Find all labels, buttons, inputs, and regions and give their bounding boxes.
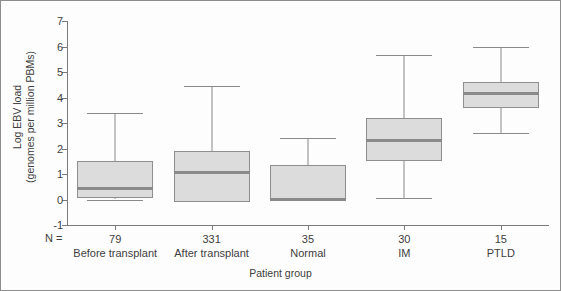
- group-count: 79: [67, 232, 163, 246]
- group-count: 331: [163, 232, 259, 246]
- n-equals-label: N =: [45, 232, 62, 244]
- box-plot-im[interactable]: [356, 21, 452, 226]
- upper-whisker-line: [500, 47, 501, 83]
- lower-whisker-cap: [376, 198, 432, 199]
- y-tick-label: 7: [57, 15, 63, 27]
- y-tick-label: 1: [57, 168, 63, 180]
- upper-whisker-line: [307, 138, 308, 165]
- y-tick-label: 2: [57, 143, 63, 155]
- upper-whisker-cap: [376, 55, 432, 56]
- group-name: IM: [356, 246, 452, 261]
- group-count: 30: [356, 232, 452, 246]
- upper-whisker-cap: [473, 47, 529, 48]
- lower-whisker-cap: [473, 133, 529, 134]
- plot-area: 76543210-1: [67, 21, 549, 226]
- group-count: 15: [453, 232, 549, 246]
- median-line: [366, 139, 442, 142]
- median-line: [463, 92, 539, 95]
- upper-whisker-cap: [87, 113, 143, 114]
- lower-whisker-line: [500, 108, 501, 134]
- y-tick-label: 5: [57, 66, 63, 78]
- box-plot-normal[interactable]: [260, 21, 356, 226]
- x-axis-title: Patient group: [1, 267, 560, 279]
- y-axis-title: Log EBV load (genomes per million PBMs): [1, 1, 47, 232]
- group-count: 35: [260, 232, 356, 246]
- x-group-im: 30IM: [356, 232, 452, 261]
- y-tick-label: 6: [57, 41, 63, 53]
- upper-whisker-cap: [184, 86, 240, 87]
- upper-whisker-cap: [280, 138, 336, 139]
- median-line: [174, 171, 250, 174]
- figure-frame: Log EBV load (genomes per million PBMs) …: [0, 0, 561, 291]
- y-axis-title-line2: (genomes per million PBMs): [24, 51, 37, 183]
- upper-whisker-line: [404, 55, 405, 117]
- y-tick-label: 3: [57, 117, 63, 129]
- x-group-normal: 35Normal: [260, 232, 356, 261]
- box-plot-before-transplant[interactable]: [67, 21, 163, 226]
- upper-whisker-line: [211, 86, 212, 151]
- group-name: After transplant: [163, 246, 259, 261]
- x-group-ptld: 15PTLD: [453, 232, 549, 261]
- iqr-box: [270, 165, 346, 199]
- box-plot-ptld[interactable]: [453, 21, 549, 226]
- group-name: Before transplant: [67, 246, 163, 261]
- y-axis-title-line1: Log EBV load: [11, 51, 24, 183]
- iqr-box: [77, 161, 153, 198]
- lower-whisker-line: [404, 161, 405, 198]
- lower-whisker-cap: [87, 200, 143, 201]
- group-name: Normal: [260, 246, 356, 261]
- y-tick-label: -1: [53, 219, 63, 231]
- y-tick-label: 4: [57, 92, 63, 104]
- y-tick-label: 0: [57, 194, 63, 206]
- median-line: [77, 187, 153, 190]
- box-plot-after-transplant[interactable]: [163, 21, 259, 226]
- x-group-after-transplant: 331After transplant: [163, 232, 259, 261]
- upper-whisker-line: [115, 113, 116, 161]
- median-line: [270, 198, 346, 201]
- group-name: PTLD: [453, 246, 549, 261]
- iqr-box: [174, 151, 250, 202]
- x-group-before-transplant: 79Before transplant: [67, 232, 163, 261]
